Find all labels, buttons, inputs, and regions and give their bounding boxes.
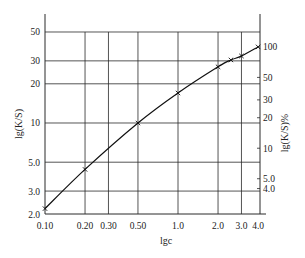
y-tick-label: 3.0 (28, 187, 40, 197)
grid-lines (45, 32, 260, 214)
series-line (45, 47, 258, 209)
axes (45, 14, 266, 214)
x-marker-icon (229, 58, 233, 62)
x-tick-label: 0.50 (130, 221, 147, 231)
x-axis-tick-labels: 0.100.200.300.501.02.03.04.0 (37, 221, 265, 231)
x-tick-label: 3.0 (236, 221, 248, 231)
x-tick-label: 0.20 (77, 221, 94, 231)
x-tick-label: 1.0 (172, 221, 184, 231)
y2-tick-label: 30 (263, 95, 273, 105)
y-tick-label: 20 (31, 79, 41, 89)
y2-tick-label: 100 (263, 42, 278, 52)
y-tick-label: 2.0 (28, 210, 40, 220)
data-series (43, 45, 260, 211)
y2-tick-label: 4.0 (263, 184, 275, 194)
y2-tick-label: 5.0 (263, 174, 275, 184)
y-tick-label: 30 (31, 56, 41, 66)
y-tick-label: 50 (31, 27, 41, 37)
x-tick-label: 4.0 (252, 221, 264, 231)
y2-tick-label: 20 (263, 113, 273, 123)
y-tick-label: 5.0 (28, 158, 40, 168)
x-tick-label: 2.0 (212, 221, 224, 231)
y2-axis-title: lg(K/S)% (279, 114, 291, 152)
x-axis-title: lgc (160, 235, 173, 246)
y-tick-label: 10 (31, 118, 41, 128)
y2-tick-label: 50 (263, 73, 273, 83)
y2-tick-label: 10 (263, 144, 273, 154)
y-axis-tick-labels: 2.03.05.010203050 (28, 27, 40, 219)
y-axis-title: lg(K/S) (13, 109, 25, 139)
chart: 0.100.200.300.501.02.03.04.0 2.03.05.010… (0, 0, 305, 258)
x-tick-label: 0.10 (37, 221, 54, 231)
x-tick-label: 0.30 (100, 221, 117, 231)
